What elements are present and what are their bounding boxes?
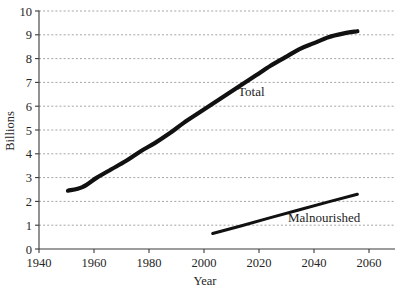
y-axis-title: Billions bbox=[3, 111, 17, 151]
y-tick-label-8: 8 bbox=[26, 52, 32, 66]
y-tick-label-3: 3 bbox=[26, 171, 32, 185]
series-annotation-total: Total bbox=[238, 84, 265, 99]
y-tick-marks bbox=[35, 11, 39, 249]
y-tick-label-5: 5 bbox=[26, 124, 32, 138]
y-tick-label-10: 10 bbox=[20, 5, 33, 19]
series-line-total bbox=[68, 31, 357, 190]
gridlines-horizontal bbox=[39, 11, 395, 225]
y-tick-label-2: 2 bbox=[26, 195, 32, 209]
y-tick-label-4: 4 bbox=[26, 147, 33, 161]
x-tick-label-2020: 2020 bbox=[247, 256, 272, 270]
series-annotation-malnourished: Malnourished bbox=[288, 210, 361, 225]
x-tick-marks bbox=[39, 249, 369, 253]
x-axis-title: Year bbox=[193, 274, 217, 288]
y-tick-label-6: 6 bbox=[26, 100, 32, 114]
population-line-chart: 10 9 8 7 6 5 4 3 2 1 0 1940 1960 1980 20… bbox=[0, 0, 397, 290]
y-tick-label-9: 9 bbox=[26, 28, 32, 42]
x-tick-label-1960: 1960 bbox=[82, 256, 107, 270]
y-tick-labels: 10 9 8 7 6 5 4 3 2 1 0 bbox=[20, 5, 33, 257]
chart-canvas: 10 9 8 7 6 5 4 3 2 1 0 1940 1960 1980 20… bbox=[0, 0, 397, 290]
x-tick-labels: 1940 1960 1980 2000 2020 2040 2060 bbox=[27, 256, 382, 270]
x-tick-label-2000: 2000 bbox=[192, 256, 217, 270]
y-tick-label-7: 7 bbox=[26, 76, 32, 90]
x-tick-label-2040: 2040 bbox=[302, 256, 327, 270]
x-tick-label-1980: 1980 bbox=[137, 256, 162, 270]
y-tick-label-0: 0 bbox=[26, 243, 32, 257]
y-tick-label-1: 1 bbox=[26, 219, 32, 233]
x-tick-label-2060: 2060 bbox=[357, 256, 382, 270]
x-tick-label-1940: 1940 bbox=[27, 256, 52, 270]
